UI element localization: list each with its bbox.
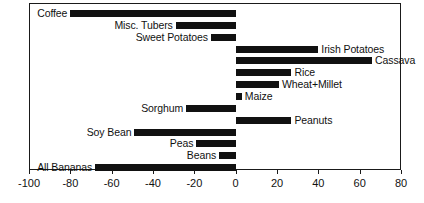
bar[interactable] bbox=[236, 81, 279, 88]
bar[interactable] bbox=[236, 69, 292, 76]
bar[interactable] bbox=[176, 22, 236, 29]
bar[interactable] bbox=[236, 117, 292, 124]
horizontal-bar-chart: CoffeeMisc. TubersSweet PotatoesIrish Po… bbox=[0, 0, 424, 203]
x-axis-tick bbox=[360, 170, 361, 174]
x-axis-tick bbox=[70, 170, 71, 174]
x-axis-tick-label: -100 bbox=[18, 176, 40, 190]
x-axis-tick-label: 0 bbox=[233, 176, 239, 190]
x-axis-tick-label: -40 bbox=[145, 176, 161, 190]
x-axis-tick-labels: -100-80-60-40-20020406080 bbox=[0, 176, 424, 192]
bar[interactable] bbox=[70, 10, 235, 17]
bar[interactable] bbox=[236, 46, 319, 53]
x-axis-tick bbox=[318, 170, 319, 174]
x-axis-tick-label: -20 bbox=[186, 176, 202, 190]
bar[interactable] bbox=[134, 129, 235, 136]
x-axis-tick-label: 80 bbox=[395, 176, 407, 190]
bar[interactable] bbox=[236, 93, 242, 100]
x-axis-tick bbox=[112, 170, 113, 174]
bars-layer: CoffeeMisc. TubersSweet PotatoesIrish Po… bbox=[29, 3, 401, 170]
x-axis-tick bbox=[194, 170, 195, 174]
x-axis-ticks bbox=[29, 170, 401, 175]
x-axis-tick-label: 20 bbox=[271, 176, 283, 190]
bar[interactable] bbox=[211, 34, 236, 41]
x-axis-tick bbox=[153, 170, 154, 174]
bar[interactable] bbox=[196, 140, 235, 147]
bar[interactable] bbox=[219, 152, 236, 159]
x-axis-tick-label: -80 bbox=[62, 176, 78, 190]
bar[interactable] bbox=[186, 105, 236, 112]
x-axis-tick bbox=[277, 170, 278, 174]
x-axis-tick bbox=[236, 170, 237, 174]
x-axis-tick bbox=[401, 170, 402, 174]
x-axis-tick-label: 40 bbox=[312, 176, 324, 190]
x-axis-tick bbox=[29, 170, 30, 174]
x-axis-tick-label: 60 bbox=[354, 176, 366, 190]
x-axis-tick-label: -60 bbox=[104, 176, 120, 190]
bar[interactable] bbox=[236, 57, 372, 64]
